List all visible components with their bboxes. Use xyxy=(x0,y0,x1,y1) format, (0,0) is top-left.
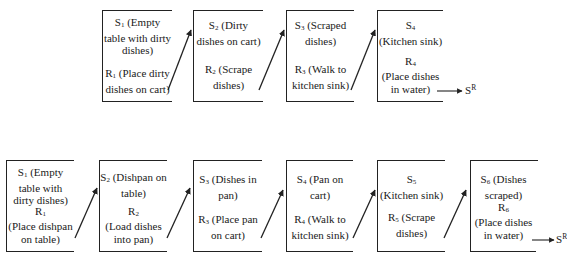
response-label: R1 (Place dirty dishes on cart) xyxy=(103,67,172,95)
response-label: R5 (Scrape dishes) xyxy=(378,211,445,239)
box-top-edge xyxy=(286,160,353,161)
box-top-edge xyxy=(102,10,170,11)
stimulus-label: S5(Kitchen sink) xyxy=(378,173,445,201)
terminal-reinforcer-bottom: SR xyxy=(556,232,567,245)
response-label: R3 (Place pan on cart) xyxy=(194,213,262,241)
response-label: R3 (Walk to kitchen sink) xyxy=(287,63,354,91)
chain-box-bottom-1: S1 (Empty table with dirty dishes) R1(Pl… xyxy=(6,160,74,252)
box-top-edge xyxy=(99,160,167,161)
box-top-edge xyxy=(193,160,262,161)
chain-box-bottom-5: S5(Kitchen sink) R5 (Scrape dishes) xyxy=(377,160,445,252)
response-label: R2(Load dishes into pan) xyxy=(100,205,167,246)
chain-box-top-4: S4(Kitchen sink) R4(Place dishes in wate… xyxy=(377,10,443,102)
response-label: R1(Place dishpan on table) xyxy=(7,205,74,246)
chain-box-bottom-3: S3 (Dishes in pan) R3 (Place pan on cart… xyxy=(193,160,262,252)
box-top-edge xyxy=(6,160,74,161)
stimulus-label: S2 (Dirty dishes on cart) xyxy=(194,19,263,47)
chain-box-top-2: S2 (Dirty dishes on cart) R2 (Scrape dis… xyxy=(193,10,263,102)
chain-box-bottom-4: S4 (Pan on cart) R4 (Walk to kitchen sin… xyxy=(286,160,353,252)
box-top-edge xyxy=(377,160,445,161)
stimulus-label: S4 (Pan on cart) xyxy=(287,173,353,201)
chain-box-bottom-6: S6 (Dishes scraped) R6(Place dishes in w… xyxy=(470,160,536,252)
stimulus-label: S4(Kitchen sink) xyxy=(378,19,443,47)
stimulus-label: S3 (Scraped dishes) xyxy=(287,19,354,47)
stimulus-label: S1 (Empty table with dirty dishes) xyxy=(103,16,172,57)
response-label: R4(Place dishes in water) xyxy=(378,55,443,96)
response-label: R6(Place dishes in water) xyxy=(471,201,536,242)
chain-box-top-3: S3 (Scraped dishes) R3 (Walk to kitchen … xyxy=(286,10,354,102)
box-top-edge xyxy=(470,160,538,161)
box-top-edge xyxy=(377,10,443,11)
box-top-edge xyxy=(193,10,261,11)
stimulus-label: S6 (Dishes scraped) xyxy=(471,173,536,201)
stimulus-label: S1 (Empty table with dirty dishes) xyxy=(7,166,74,207)
stimulus-label: S3 (Dishes in pan) xyxy=(194,173,262,201)
terminal-reinforcer-top: SR xyxy=(465,83,476,96)
response-label: R4 (Walk to kitchen sink) xyxy=(287,213,353,241)
chain-box-top-1: S1 (Empty table with dirty dishes) R1 (P… xyxy=(102,10,172,102)
response-label: R2 (Scrape dishes) xyxy=(194,63,263,91)
box-top-edge xyxy=(286,10,353,11)
stimulus-label: S2 (Dishpan on table) xyxy=(100,171,167,199)
chain-box-bottom-2: S2 (Dishpan on table) R2(Load dishes int… xyxy=(99,160,167,252)
